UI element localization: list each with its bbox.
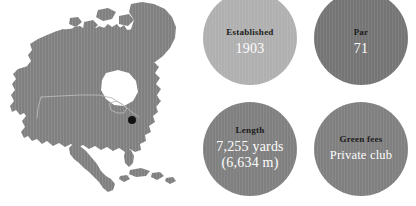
stat-label-established: Established xyxy=(207,28,293,38)
stat-circle-green-fees[interactable]: Green fees Private club xyxy=(314,102,408,196)
stat-content-established: Established 1903 xyxy=(203,19,297,57)
stat-value-green-fees: Private club xyxy=(318,148,404,163)
stat-value-length-yards: 7,255 yards xyxy=(207,139,293,156)
stat-label-green-fees: Green fees xyxy=(318,135,404,145)
stat-circle-length[interactable]: Length 7,255 yards (6,634 m) xyxy=(203,102,297,196)
stat-label-length: Length xyxy=(207,126,293,136)
stat-content-green-fees: Green fees Private club xyxy=(314,135,408,163)
stat-value-par: 71 xyxy=(318,41,404,58)
stat-value-established: 1903 xyxy=(207,41,293,58)
map-landmasses xyxy=(10,2,176,192)
stat-content-length: Length 7,255 yards (6,634 m) xyxy=(203,126,297,172)
stat-circle-established[interactable]: Established 1903 xyxy=(203,0,297,85)
location-map xyxy=(0,0,196,206)
fact-panel: Established 1903 Par 71 Length 7,255 yar… xyxy=(0,0,416,206)
stat-content-par: Par 71 xyxy=(314,19,408,57)
location-dot-icon xyxy=(128,116,136,124)
stat-label-par: Par xyxy=(318,28,404,38)
stat-value-length-meters: (6,634 m) xyxy=(207,155,293,172)
north-america-map-graphic xyxy=(0,0,196,206)
stat-circle-par[interactable]: Par 71 xyxy=(314,0,408,85)
